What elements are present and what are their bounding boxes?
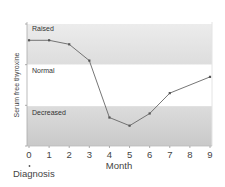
data-point (48, 39, 50, 41)
band-label-decreased: Decreased (32, 109, 66, 116)
x-tick-label: 5 (127, 149, 132, 160)
diagnosis-annotation: Diagnosis (13, 168, 55, 179)
x-tick-label: 8 (187, 149, 192, 160)
y-axis-title: Serum free thyroxine (13, 52, 21, 117)
data-point (128, 125, 130, 127)
data-point (169, 92, 171, 94)
x-tick-label: 9 (207, 149, 212, 160)
thyroxine-chart: 0123456789 Raised Normal Decreased Month… (0, 0, 225, 187)
data-point (108, 116, 110, 118)
data-point (28, 39, 30, 41)
data-point (149, 112, 151, 114)
x-tick-label: 6 (147, 149, 152, 160)
reference-bands (27, 22, 212, 146)
x-tick-label: 2 (67, 149, 72, 160)
x-tick-label: 3 (87, 149, 92, 160)
band-raised (27, 24, 212, 65)
diagnosis-marker (29, 165, 31, 167)
x-tick-label: 7 (167, 149, 172, 160)
data-point (68, 43, 70, 45)
x-axis-title: Month (106, 160, 132, 171)
band-label-raised: Raised (32, 25, 54, 32)
data-point (209, 76, 211, 78)
x-tick-label: 1 (46, 149, 51, 160)
band-normal (27, 65, 212, 106)
band-label-normal: Normal (32, 67, 55, 74)
x-tick-label: 0 (26, 149, 31, 160)
x-tick-label: 4 (107, 149, 112, 160)
data-point (88, 60, 90, 62)
